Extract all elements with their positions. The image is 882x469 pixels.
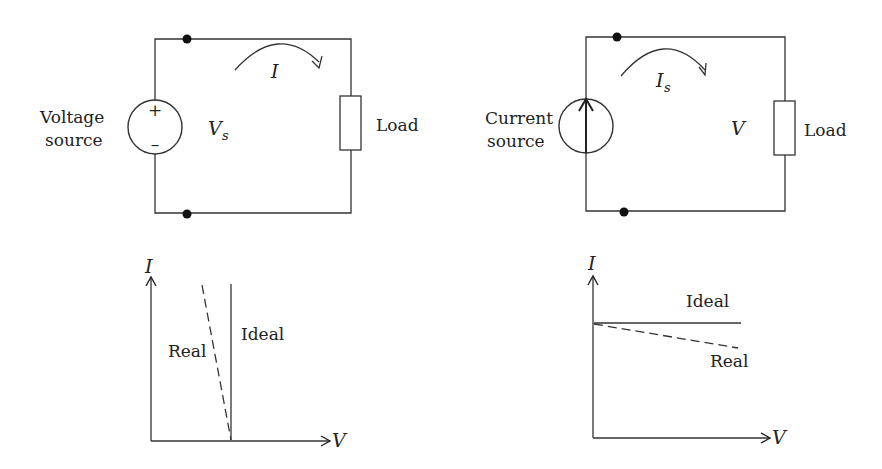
current-symbol: I — [655, 69, 664, 91]
y-axis-label: I — [587, 252, 596, 274]
load-resistor — [774, 101, 795, 155]
x-axis-label: V — [332, 429, 348, 451]
circuit-wire — [586, 37, 785, 211]
ideal-label: Ideal — [241, 324, 284, 344]
terminal-dot-top — [183, 35, 192, 44]
minus-sign: – — [151, 134, 160, 154]
circuit-wire — [155, 39, 351, 213]
real-label: Real — [710, 351, 748, 371]
current-subscript: s — [664, 80, 671, 95]
current-source-circuit: Current source I s V Load — [485, 33, 847, 217]
ideal-label: Ideal — [686, 291, 729, 311]
terminal-dot-bottom — [620, 208, 629, 217]
source-label-line1: Voltage — [39, 107, 104, 127]
voltage-source-iv-chart: I V Ideal Real — [144, 255, 348, 451]
voltage-symbol: V — [731, 117, 747, 139]
load-label: Load — [376, 115, 419, 135]
current-symbol: I — [270, 60, 279, 82]
load-resistor — [340, 96, 361, 150]
source-label-line2: source — [45, 130, 103, 150]
real-line — [594, 324, 738, 348]
real-label: Real — [168, 341, 206, 361]
plus-sign: + — [148, 100, 162, 120]
voltage-source-circuit: + – Voltage source V s I Load — [39, 35, 419, 219]
diagram-canvas: + – Voltage source V s I Load Current so… — [0, 0, 882, 469]
y-axis-label: I — [144, 255, 153, 277]
real-line — [202, 285, 231, 440]
current-source-iv-chart: I V Ideal Real — [587, 252, 788, 448]
voltage-subscript: s — [222, 128, 229, 143]
source-label-line1: Current — [485, 108, 553, 128]
terminal-dot-bottom — [183, 210, 192, 219]
load-label: Load — [804, 120, 847, 140]
terminal-dot-top — [613, 33, 622, 42]
source-label-line2: source — [487, 131, 545, 151]
x-axis-label: V — [772, 426, 788, 448]
